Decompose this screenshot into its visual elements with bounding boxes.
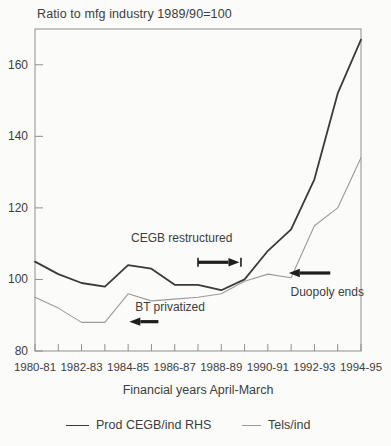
x-tick-label: 1980-81 — [14, 361, 56, 373]
legend-item-tels: Tels/ind — [242, 416, 310, 434]
x-tick-label: 1986-87 — [154, 361, 196, 373]
y-tick-label: 160 — [8, 58, 28, 72]
y-tick-label: 100 — [8, 272, 28, 286]
annotation-text-1: BT privatized — [135, 300, 205, 314]
x-tick-label: 1990-91 — [247, 361, 289, 373]
series-line-0 — [35, 40, 361, 291]
legend-line-sample-tels — [242, 425, 261, 426]
annotation-text-0: CEGB restructured — [131, 231, 232, 245]
legend-label-prod-cegb: Prod CEGB/ind RHS — [96, 418, 211, 432]
annotation-arrowhead-1 — [129, 317, 140, 325]
x-tick-label: 1984-85 — [107, 361, 149, 373]
y-tick-label: 80 — [15, 344, 29, 358]
x-tick-label: 1988-89 — [200, 361, 242, 373]
chart-legend: Prod CEGB/ind RHS Tels/ind — [0, 416, 391, 438]
line-chart-plot: 801001201401601980-811982-831984-851986-… — [0, 0, 391, 446]
x-axis-label: Financial years April-March — [35, 383, 361, 397]
x-tick-label: 1992-93 — [293, 361, 335, 373]
x-tick-label: 1994-95 — [340, 361, 382, 373]
legend-line-sample-prod-cegb — [66, 425, 89, 426]
y-tick-label: 140 — [8, 129, 28, 143]
y-tick-label: 120 — [8, 201, 28, 215]
legend-item-prod-cegb: Prod CEGB/ind RHS — [66, 416, 211, 434]
x-tick-label: 1982-83 — [60, 361, 102, 373]
annotation-text-2: Duopoly ends — [291, 285, 364, 299]
legend-label-tels: Tels/ind — [268, 418, 310, 432]
annotation-arrowhead-0 — [228, 258, 239, 266]
